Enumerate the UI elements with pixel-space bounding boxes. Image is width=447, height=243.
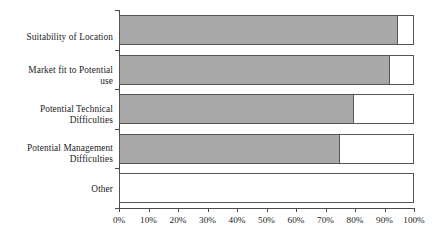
y-axis-tick — [115, 50, 119, 51]
y-axis-tick — [115, 10, 119, 11]
x-axis-tick — [149, 208, 150, 212]
y-axis-label-line: Difficulties — [0, 115, 113, 126]
x-axis-tick — [119, 208, 120, 212]
bar-chart: Suitability of Location Market fit to Po… — [0, 0, 447, 243]
y-axis-label-line: Market fit to Potential — [0, 65, 113, 76]
x-axis-tick-label: 100% — [394, 215, 434, 226]
x-axis-tick — [355, 208, 356, 212]
x-axis-tick — [414, 208, 415, 212]
x-axis-tick — [237, 208, 238, 212]
bar-market-fit-to-potential-use — [119, 55, 414, 85]
y-axis-label-potential-management-difficulties: Potential Management Difficulties — [0, 143, 113, 166]
y-axis-tick — [115, 168, 119, 169]
bar-suitability-of-location — [119, 15, 414, 45]
bar-fill — [120, 135, 340, 163]
x-axis-tick — [178, 208, 179, 212]
y-axis-tick — [115, 129, 119, 130]
x-axis-tick — [296, 208, 297, 212]
bar-potential-technical-difficulties — [119, 94, 414, 124]
bar-fill — [120, 16, 398, 44]
x-axis-tick — [208, 208, 209, 212]
y-axis-label-market-fit-to-potential-use: Market fit to Potential use — [0, 65, 113, 88]
bar-fill — [120, 95, 354, 123]
y-axis-tick — [115, 89, 119, 90]
y-axis-label-other: Other — [0, 184, 113, 195]
y-axis-label-potential-technical-difficulties: Potential Technical Difficulties — [0, 104, 113, 127]
y-axis-label-line: Suitability of Location — [0, 32, 113, 43]
x-axis-tick — [385, 208, 386, 212]
bar-potential-management-difficulties — [119, 134, 414, 164]
y-axis-label-line: Difficulties — [0, 154, 113, 165]
y-axis-category-labels: Suitability of Location Market fit to Po… — [0, 10, 113, 208]
bar-fill — [120, 56, 390, 84]
y-axis-label-line: Potential Technical — [0, 104, 113, 115]
y-axis-label-line: use — [0, 76, 113, 87]
plot-area: 0% 10% 20% 30% 40% 50% 60% 70% 80% 90% 1… — [119, 10, 414, 208]
bar-other — [119, 173, 414, 203]
x-axis-tick — [326, 208, 327, 212]
x-axis-tick — [267, 208, 268, 212]
y-axis-label-line: Potential Management — [0, 143, 113, 154]
y-axis-label-line: Other — [0, 184, 113, 195]
y-axis-label-suitability-of-location: Suitability of Location — [0, 32, 113, 43]
